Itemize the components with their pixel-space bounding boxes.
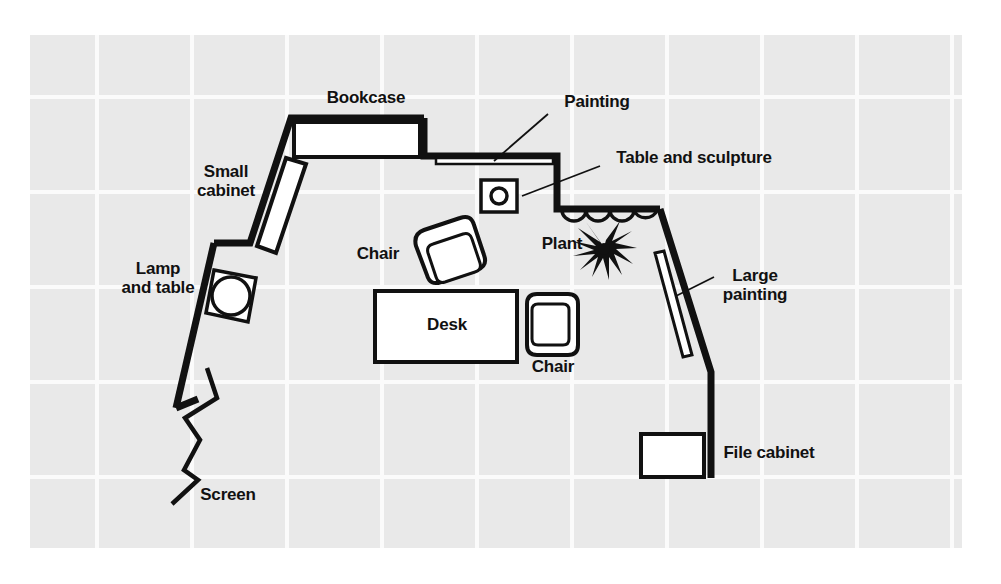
label-painting: Painting [547, 92, 647, 111]
floor-plan-canvas: Bookcase Painting Table and sculpture Sm… [0, 0, 1001, 584]
label-small-cabinet: Small cabinet [166, 162, 286, 200]
label-chair-right: Chair [511, 357, 595, 376]
file-cabinet-shape [641, 434, 704, 477]
label-bookcase: Bookcase [306, 88, 426, 107]
label-file-cabinet: File cabinet [709, 443, 829, 462]
chair-right-shape [527, 294, 578, 355]
label-large-painting: Large painting [703, 266, 807, 304]
label-table-and-sculpture: Table and sculpture [604, 148, 784, 167]
label-screen: Screen [186, 485, 270, 504]
bookcase-shape [294, 122, 420, 157]
label-plant: Plant [520, 234, 604, 253]
label-chair-top: Chair [336, 244, 420, 263]
table-and-sculpture-shape [481, 180, 517, 212]
label-desk: Desk [405, 315, 489, 334]
label-lamp-and-table: Lamp and table [98, 259, 218, 297]
